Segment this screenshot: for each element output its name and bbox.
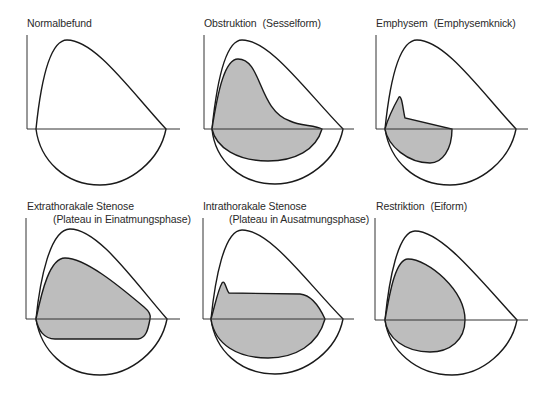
extrathoracic-stenosis-loop (36, 258, 150, 339)
panel-intrathorakale-stenose (203, 218, 354, 374)
panel-restriktion (375, 218, 528, 375)
normal-loop (36, 40, 166, 185)
panel-extrathorakale-stenose (26, 218, 180, 375)
obstruction-loop (212, 59, 322, 161)
restriction-loop (385, 259, 465, 352)
normal-loop (385, 40, 516, 185)
flow-volume-diagram (0, 0, 547, 393)
panel-emphysem (376, 35, 528, 185)
emphysema-loop (385, 97, 452, 163)
intrathoracic-stenosis-loop (211, 282, 325, 358)
panel-normalbefund (27, 35, 180, 185)
panel-obstruktion (204, 35, 354, 184)
